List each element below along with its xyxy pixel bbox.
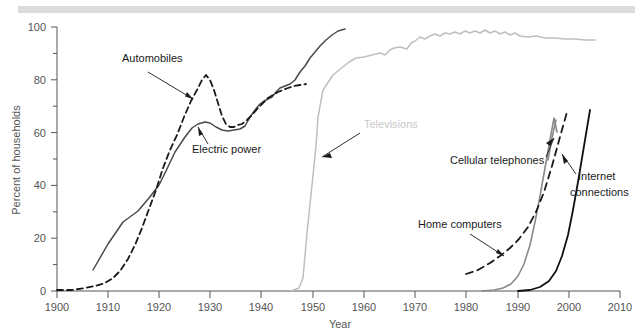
annotation-internet-connections: Internet connections	[562, 154, 629, 198]
x-tick-label-1970: 1970	[403, 301, 427, 313]
x-tick-label-1940: 1940	[249, 301, 273, 313]
chart-svg: 0 20 40 60 80 100 Percent of households …	[0, 0, 644, 332]
x-tick-label-1930: 1930	[198, 301, 222, 313]
y-tick-label-80: 80	[34, 74, 46, 86]
label-cellular-telephones: Cellular telephones	[450, 154, 545, 166]
y-tick-label-20: 20	[34, 232, 46, 244]
label-electric-power: Electric power	[192, 143, 261, 155]
annotation-home-computers: Home computers	[418, 218, 504, 256]
annotation-televisions: Televisions	[322, 118, 418, 158]
label-internet-connections-line1: Internet	[578, 170, 615, 182]
annotation-automobiles: Automobiles	[122, 52, 193, 99]
series-televisions	[291, 30, 595, 291]
y-axis-title: Percent of households	[10, 105, 22, 215]
y-tick-label-100: 100	[28, 21, 46, 33]
y-tick-label-0: 0	[40, 285, 46, 297]
series-cellular-telephones	[482, 118, 557, 291]
x-tick-label-1910: 1910	[96, 301, 120, 313]
y-tick-label-60: 60	[34, 127, 46, 139]
x-tick-label-1920: 1920	[147, 301, 171, 313]
label-internet-connections-line2: connections	[570, 186, 629, 198]
x-axis: 1900 1910 1920 1930 1940 1950 1960 1970 …	[45, 291, 632, 330]
y-axis: 0 20 40 60 80 100 Percent of households	[10, 21, 57, 297]
x-tick-label-1900: 1900	[45, 301, 69, 313]
label-automobiles: Automobiles	[122, 52, 183, 64]
x-axis-title: Year	[329, 318, 352, 330]
x-tick-label-2000: 2000	[557, 301, 581, 313]
annotation-cellular-telephones: Cellular telephones	[450, 138, 554, 166]
series-automobiles	[57, 75, 306, 290]
x-tick-label-2010: 2010	[608, 301, 632, 313]
x-tick-label-1980: 1980	[454, 301, 478, 313]
x-tick-label-1990: 1990	[506, 301, 530, 313]
chart-figure: 0 20 40 60 80 100 Percent of households …	[0, 0, 644, 332]
x-tick-label-1950: 1950	[301, 301, 325, 313]
label-home-computers: Home computers	[418, 218, 502, 230]
y-tick-label-40: 40	[34, 179, 46, 191]
label-televisions: Televisions	[364, 118, 418, 130]
series-internet-connections	[518, 110, 590, 291]
x-tick-label-1960: 1960	[352, 301, 376, 313]
